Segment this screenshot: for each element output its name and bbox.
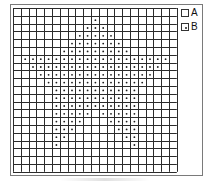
dot-cell: [110, 97, 112, 99]
dot-cell: [71, 82, 73, 84]
dot-cell: [102, 66, 104, 68]
dot-cell: [56, 90, 58, 92]
dot-cell: [110, 90, 112, 92]
dot-cell: [157, 66, 159, 68]
dot-cell: [118, 90, 120, 92]
dot-cell: [48, 82, 50, 84]
dot-cell: [48, 74, 50, 76]
dot-cell: [40, 74, 42, 76]
dot-cell: [56, 144, 58, 146]
dot-cell: [149, 74, 151, 76]
dot-cell: [118, 105, 120, 107]
dot-cell: [63, 90, 65, 92]
dot-cell: [141, 82, 143, 84]
dot-cell: [126, 129, 128, 131]
dot-cell: [87, 113, 89, 115]
dot-cell: [102, 113, 104, 115]
dot-cell: [110, 113, 112, 115]
grid-lines: [13, 8, 178, 173]
dot-cell: [102, 82, 104, 84]
dot-cell: [118, 66, 120, 68]
dot-cell: [118, 129, 120, 131]
dot-cell: [102, 43, 104, 45]
dot-cell: [56, 58, 58, 60]
dot-cell: [63, 136, 65, 138]
dot-cell: [63, 58, 65, 60]
scan-shadow: [60, 178, 150, 181]
dot-cell: [87, 27, 89, 29]
dotted-square-icon: [181, 23, 189, 31]
dot-cell: [95, 35, 97, 37]
dot-cell: [63, 74, 65, 76]
dot-cell: [95, 19, 97, 21]
dot-cell: [71, 66, 73, 68]
dot-cell: [56, 105, 58, 107]
dot-cell: [126, 66, 128, 68]
dot-cell: [48, 66, 50, 68]
dot-cell: [71, 58, 73, 60]
dot-cell: [71, 90, 73, 92]
legend-item-a: A: [181, 8, 198, 18]
dot-cell: [126, 136, 128, 138]
dot-cell: [102, 90, 104, 92]
dot-cell: [102, 27, 104, 29]
dot-cell: [110, 58, 112, 60]
dot-cell: [118, 97, 120, 99]
dot-cell: [134, 82, 136, 84]
dot-cell: [110, 82, 112, 84]
dot-cell: [79, 121, 81, 123]
dot-cell: [110, 51, 112, 53]
dot-cell: [126, 58, 128, 60]
legend-item-b: B: [181, 22, 198, 32]
dot-cell: [126, 90, 128, 92]
legend-label-a: A: [191, 8, 198, 18]
dot-cell: [95, 74, 97, 76]
dot-cell: [102, 35, 104, 37]
dot-cell: [63, 66, 65, 68]
dot-cell: [63, 82, 65, 84]
dot-cell: [102, 74, 104, 76]
dot-cell: [71, 121, 73, 123]
dot-cell: [134, 129, 136, 131]
dot-cell: [134, 97, 136, 99]
dot-cell: [56, 121, 58, 123]
dot-icon: [185, 27, 187, 29]
dot-cell: [71, 113, 73, 115]
dot-cell: [79, 43, 81, 45]
dot-cell: [71, 51, 73, 53]
dot-cell: [118, 51, 120, 53]
dot-cell: [40, 66, 42, 68]
dot-cell: [87, 90, 89, 92]
dot-cell: [87, 74, 89, 76]
dot-cell: [79, 97, 81, 99]
empty-square-icon: [181, 9, 189, 17]
dot-cell: [157, 58, 159, 60]
dot-cell: [87, 66, 89, 68]
dot-cell: [79, 82, 81, 84]
dot-cell: [71, 74, 73, 76]
dot-cell: [95, 90, 97, 92]
dot-cell: [95, 43, 97, 45]
dot-cell: [149, 66, 151, 68]
dot-cell: [87, 105, 89, 107]
dot-cell: [102, 51, 104, 53]
dot-cell: [110, 121, 112, 123]
dot-cell: [134, 113, 136, 115]
dot-cell: [32, 66, 34, 68]
dot-cell: [87, 51, 89, 53]
dot-cell: [79, 58, 81, 60]
dot-cell: [134, 74, 136, 76]
dot-cell: [63, 121, 65, 123]
dot-cell: [118, 74, 120, 76]
dot-cell: [24, 58, 26, 60]
dot-cell: [87, 35, 89, 37]
dot-cell: [95, 97, 97, 99]
dot-cell: [126, 105, 128, 107]
dot-cell: [134, 144, 136, 146]
dot-cell: [32, 58, 34, 60]
dot-cell: [95, 105, 97, 107]
dot-cell: [134, 58, 136, 60]
dot-cell: [63, 113, 65, 115]
dot-cell: [87, 58, 89, 60]
dot-cell: [110, 74, 112, 76]
